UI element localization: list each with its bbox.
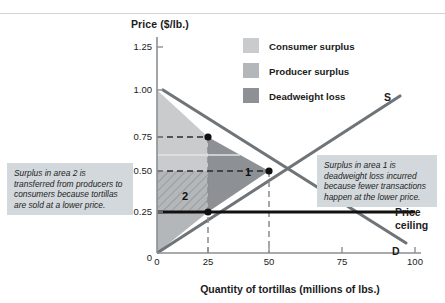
legend-label-deadweight-loss: Deadweight loss xyxy=(269,91,345,102)
point-equilibrium xyxy=(265,167,272,174)
point-demand-at-restricted-quantity xyxy=(204,133,211,140)
consumer-surplus-swatch xyxy=(243,38,259,53)
y-tick-label-125: 1.25 xyxy=(122,41,152,52)
area-label-1: 1 xyxy=(245,166,251,178)
price-ceiling-label-line2: ceiling xyxy=(395,219,428,231)
price-ceiling-label-line1: Price xyxy=(395,206,421,218)
x-tick-label-75: 75 xyxy=(329,256,355,267)
supply-curve-label: S xyxy=(384,91,391,103)
price-ceiling-label: Price ceiling xyxy=(395,206,443,231)
figure-container: Price ($/lb.) Quantity of tortillas (mil… xyxy=(0,0,445,303)
note-area-1: Surplus in area 1 is deadweight loss inc… xyxy=(317,155,437,207)
deadweight-loss-swatch xyxy=(243,88,259,103)
x-tick-label-100: 100 xyxy=(402,256,428,267)
y-tick-label-075: 0.75 xyxy=(122,131,152,142)
x-tick-label-25: 25 xyxy=(195,256,221,267)
x-tick-label-0: 0 xyxy=(144,256,170,267)
x-axis-title: Quantity of tortillas (millions of lbs.) xyxy=(160,283,420,295)
producer-surplus-swatch xyxy=(243,63,259,78)
y-axis-title: Price ($/lb.) xyxy=(131,18,189,30)
legend-label-producer-surplus: Producer surplus xyxy=(269,66,349,77)
supply-demand-plot xyxy=(0,0,445,303)
y-tick-label-100: 1.00 xyxy=(122,84,152,95)
x-tick-label-50: 50 xyxy=(256,256,282,267)
note-area-2: Surplus in area 2 is transferred from pr… xyxy=(7,163,133,215)
legend-label-consumer-surplus: Consumer surplus xyxy=(269,41,355,52)
demand-curve-label: D xyxy=(392,245,400,257)
area-label-2: 2 xyxy=(182,190,188,202)
point-quantity-supplied-at-ceiling xyxy=(204,208,211,215)
